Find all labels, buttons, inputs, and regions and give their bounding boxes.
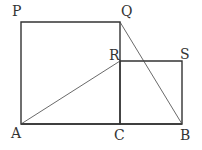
label-q: Q <box>121 3 132 19</box>
square-apqc <box>21 22 120 124</box>
geometry-figure: P Q R S A C B <box>0 0 202 150</box>
label-a: A <box>10 125 22 141</box>
segment-qb <box>120 22 182 124</box>
label-c: C <box>114 127 125 143</box>
label-s: S <box>180 46 190 62</box>
label-p: P <box>12 3 21 19</box>
figure-canvas: P Q R S A C B <box>0 0 202 150</box>
square-crsb <box>120 61 182 124</box>
label-r: R <box>109 47 120 63</box>
segment-ar <box>21 61 120 124</box>
label-b: B <box>180 127 190 143</box>
